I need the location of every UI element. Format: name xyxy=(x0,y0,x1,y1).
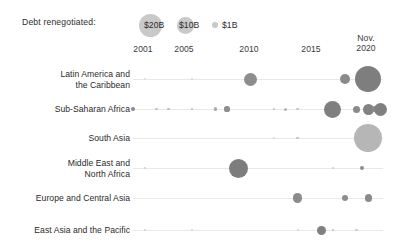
data-bubble xyxy=(317,226,326,235)
data-bubble xyxy=(354,124,382,152)
data-bubble xyxy=(229,159,248,178)
data-bubble xyxy=(155,108,157,110)
data-bubble xyxy=(355,229,357,231)
data-bubble xyxy=(355,66,381,92)
data-bubble xyxy=(273,137,275,139)
data-bubble xyxy=(191,108,194,111)
data-bubble xyxy=(297,229,299,231)
data-bubble xyxy=(365,194,372,201)
data-bubble xyxy=(144,78,146,80)
data-bubble xyxy=(374,103,387,116)
data-bubble xyxy=(324,101,341,118)
data-bubble xyxy=(293,193,303,203)
data-bubble xyxy=(353,106,360,113)
data-bubble xyxy=(191,229,193,231)
data-bubble xyxy=(296,108,298,110)
data-bubble xyxy=(131,107,135,111)
legend-label-1: $10B xyxy=(179,20,199,30)
data-bubble xyxy=(332,229,334,231)
data-bubble xyxy=(284,108,287,111)
data-bubble xyxy=(360,166,364,170)
data-bubble xyxy=(144,229,146,231)
data-bubble xyxy=(332,167,334,169)
data-bubble xyxy=(273,108,276,111)
data-bubble xyxy=(342,195,348,201)
plot-area xyxy=(0,0,395,251)
data-bubble xyxy=(244,73,257,86)
data-bubble xyxy=(214,107,218,111)
data-bubble xyxy=(191,78,193,80)
data-bubble xyxy=(144,167,146,169)
data-bubble xyxy=(224,106,229,111)
bubble-timeline-chart: Debt renegotiated: $20B$10B$1B 200120052… xyxy=(0,0,395,251)
data-bubble xyxy=(296,137,299,140)
data-bubble xyxy=(167,108,170,111)
legend-label-0: $20B xyxy=(144,20,164,30)
legend-label-2: $1B xyxy=(222,20,238,30)
data-bubble xyxy=(340,74,350,84)
